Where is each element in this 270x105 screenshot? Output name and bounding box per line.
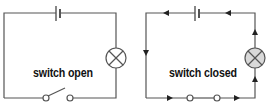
circuit-diagrams: switch open switch closed: [0, 0, 270, 105]
lamp-lit-icon: [245, 48, 265, 68]
open-switch-icon: [43, 88, 73, 101]
arrow-left-icon: [163, 10, 169, 16]
arrow-down-icon: [143, 50, 149, 56]
switch-open-label: switch open: [33, 65, 93, 80]
wire-top-right: [199, 13, 255, 48]
lamp-icon: [106, 48, 126, 68]
arrow-right-icon: [167, 95, 173, 101]
arrow-right-icon: [234, 95, 240, 101]
current-arrows: [143, 10, 258, 101]
open-circuit: [4, 6, 126, 101]
circuit-drawing: [0, 0, 270, 105]
arrow-left-icon: [225, 10, 231, 16]
closed-circuit: [146, 6, 265, 101]
wire-top-left: [146, 13, 195, 98]
arrow-up-icon: [252, 29, 258, 35]
closed-switch-icon: [187, 95, 220, 101]
arrow-up-icon: [252, 76, 258, 82]
wire-top-left: [4, 13, 56, 98]
wire-top-right: [60, 13, 116, 48]
switch-closed-label: switch closed: [169, 65, 237, 80]
